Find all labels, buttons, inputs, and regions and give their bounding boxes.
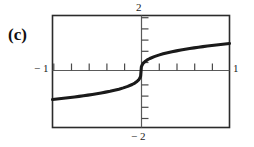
axis-label-bottom: − 2 bbox=[131, 131, 145, 142]
x-tick-group bbox=[54, 64, 213, 71]
figure-panel: (c) bbox=[0, 0, 254, 147]
axis-label-right: 1 bbox=[233, 63, 239, 74]
axis-label-top: 2 bbox=[136, 2, 142, 13]
axis-label-left: − 1 bbox=[34, 63, 48, 74]
